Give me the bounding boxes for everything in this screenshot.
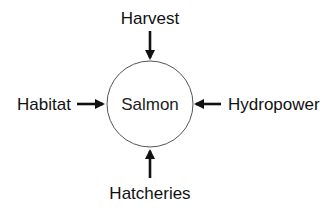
influence-hydropower: Hydropower	[196, 95, 320, 114]
influence-harvest: Harvest	[121, 9, 180, 58]
habitat-label: Habitat	[17, 95, 71, 114]
salmon-node: Salmon	[107, 61, 193, 147]
influence-hatcheries: Hatcheries	[109, 151, 190, 203]
salmon-influence-diagram: Salmon Harvest Habitat Hydropower Hatche…	[0, 0, 334, 210]
influence-habitat: Habitat	[17, 95, 103, 114]
harvest-label: Harvest	[121, 9, 180, 28]
hatcheries-label: Hatcheries	[109, 184, 190, 203]
salmon-label: Salmon	[121, 95, 179, 114]
hydropower-label: Hydropower	[228, 95, 320, 114]
